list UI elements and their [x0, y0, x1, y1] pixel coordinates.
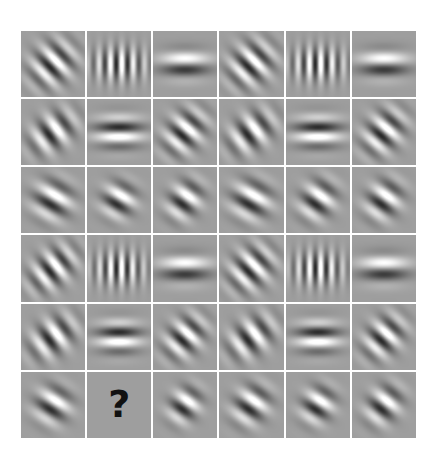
gabor-patch	[352, 167, 416, 233]
matrix-grid: ?	[21, 31, 416, 438]
gabor-patch	[21, 167, 85, 233]
gabor-patch	[352, 31, 416, 97]
gabor-patch	[87, 99, 151, 165]
gabor-patch	[21, 235, 85, 301]
matrix-cell[interactable]	[352, 235, 416, 301]
matrix-cell[interactable]	[21, 31, 85, 97]
gabor-patch	[21, 99, 85, 165]
matrix-cell[interactable]	[219, 304, 283, 370]
matrix-cell[interactable]	[21, 372, 85, 438]
gabor-patch	[219, 372, 283, 438]
gabor-patch	[286, 31, 350, 97]
gabor-patch	[153, 304, 217, 370]
gabor-patch	[286, 304, 350, 370]
gabor-patch	[286, 235, 350, 301]
gabor-patch	[87, 304, 151, 370]
matrix-cell[interactable]	[286, 99, 350, 165]
matrix-cell[interactable]	[219, 31, 283, 97]
gabor-patch	[352, 99, 416, 165]
matrix-cell[interactable]	[153, 235, 217, 301]
gabor-patch	[153, 99, 217, 165]
matrix-cell[interactable]	[153, 167, 217, 233]
matrix-cell[interactable]	[286, 372, 350, 438]
matrix-cell[interactable]	[153, 304, 217, 370]
gabor-patch	[219, 167, 283, 233]
matrix-cell[interactable]	[219, 99, 283, 165]
matrix-cell[interactable]	[352, 31, 416, 97]
gabor-patch	[286, 167, 350, 233]
gabor-patch	[352, 235, 416, 301]
matrix-cell[interactable]	[153, 31, 217, 97]
matrix-cell-missing[interactable]: ?	[87, 372, 151, 438]
gabor-patch	[21, 304, 85, 370]
matrix-cell[interactable]	[352, 304, 416, 370]
matrix-cell[interactable]	[21, 99, 85, 165]
stimulus-figure: ?	[21, 31, 416, 438]
gabor-patch	[87, 31, 151, 97]
matrix-cell[interactable]	[87, 235, 151, 301]
gabor-patch	[153, 167, 217, 233]
matrix-cell[interactable]	[87, 31, 151, 97]
gabor-patch	[219, 99, 283, 165]
matrix-cell[interactable]	[21, 167, 85, 233]
matrix-cell[interactable]	[219, 167, 283, 233]
matrix-cell[interactable]	[352, 99, 416, 165]
gabor-patch	[286, 372, 350, 438]
matrix-cell[interactable]	[87, 99, 151, 165]
missing-cell-question-mark: ?	[108, 385, 130, 423]
gabor-patch	[352, 372, 416, 438]
matrix-cell[interactable]	[153, 372, 217, 438]
matrix-cell[interactable]	[286, 167, 350, 233]
gabor-patch	[21, 372, 85, 438]
matrix-cell[interactable]	[286, 235, 350, 301]
matrix-cell[interactable]	[286, 31, 350, 97]
gabor-patch	[87, 167, 151, 233]
gabor-patch	[87, 235, 151, 301]
gabor-patch	[286, 99, 350, 165]
matrix-cell[interactable]	[153, 99, 217, 165]
matrix-cell[interactable]	[21, 235, 85, 301]
matrix-cell[interactable]	[21, 304, 85, 370]
gabor-patch	[153, 235, 217, 301]
gabor-patch	[219, 31, 283, 97]
matrix-cell[interactable]	[87, 304, 151, 370]
matrix-cell[interactable]	[352, 372, 416, 438]
gabor-patch	[21, 31, 85, 97]
gabor-patch	[153, 372, 217, 438]
matrix-cell[interactable]	[219, 235, 283, 301]
gabor-patch	[219, 235, 283, 301]
gabor-patch	[219, 304, 283, 370]
matrix-cell[interactable]	[87, 167, 151, 233]
matrix-cell[interactable]	[286, 304, 350, 370]
matrix-cell[interactable]	[352, 167, 416, 233]
gabor-patch	[352, 304, 416, 370]
matrix-cell[interactable]	[219, 372, 283, 438]
gabor-patch	[153, 31, 217, 97]
